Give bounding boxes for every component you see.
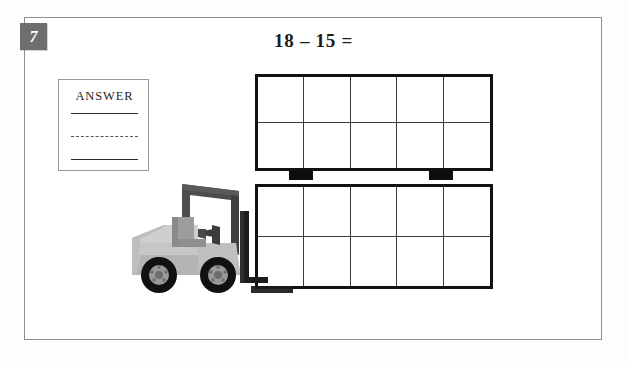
crate-cell (444, 123, 490, 169)
crate-cell (351, 123, 397, 169)
forklift-illustration (128, 183, 268, 301)
pallet-foot-right (429, 171, 453, 180)
crate-cell (351, 77, 397, 123)
crate-cell (351, 237, 397, 287)
crate-cell (304, 237, 350, 287)
answer-writing-line-middle-dashed (71, 136, 138, 137)
crate-cell (397, 187, 443, 237)
answer-label: ANSWER (59, 89, 150, 104)
crate-cell (444, 187, 490, 237)
crate-cell (304, 123, 350, 169)
answer-writing-line-top (71, 113, 138, 114)
crate-bottom (255, 184, 493, 289)
answer-writing-line-bottom (71, 159, 138, 160)
equation-text: 18 – 15 = (0, 30, 627, 52)
mast-icon (240, 211, 249, 283)
wheel-rear-icon (141, 257, 177, 293)
crate-cell (258, 123, 304, 169)
crate-cell (397, 123, 443, 169)
pallet-foot-left (289, 171, 313, 180)
crate-cell (304, 77, 350, 123)
answer-box[interactable]: ANSWER (58, 79, 149, 171)
crate-cell (258, 77, 304, 123)
crate-cell (397, 77, 443, 123)
crate-cell (444, 77, 490, 123)
crate-cell (351, 187, 397, 237)
crate-cell (397, 237, 443, 287)
crate-cell (304, 187, 350, 237)
page-border (24, 17, 602, 340)
fork-tine-icon (246, 277, 268, 283)
worksheet-page: 7 18 – 15 = ANSWER (0, 0, 627, 365)
crate-top (255, 74, 493, 171)
crate-cell (444, 237, 490, 287)
wheel-front-icon (200, 257, 236, 293)
